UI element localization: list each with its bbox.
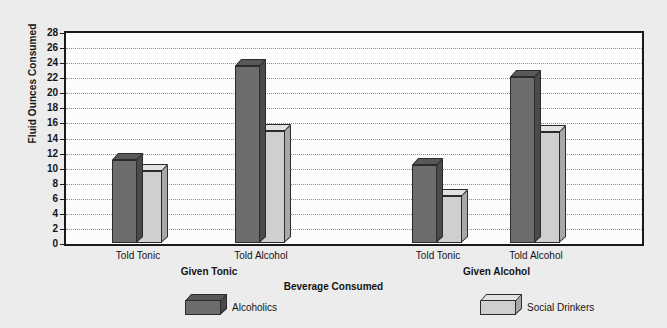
bar-side-face [161,164,168,243]
bar-side-face [136,154,143,243]
legend-item[interactable]: Social Drinkers [480,300,594,315]
bar [235,66,260,243]
y-axis-tick-label: 20 [32,87,58,98]
y-axis-tick-label: 16 [32,117,58,128]
bar-side-face [461,190,468,243]
y-axis-tick-label: 28 [32,27,58,38]
x-axis-category-label: Told Alcohol [213,250,309,261]
legend-swatch [480,300,516,315]
y-axis-tick-label: 22 [32,72,58,83]
bar-front-face [510,77,535,243]
bar-side-face [559,126,566,243]
bar-side-face [436,159,443,243]
bar [412,165,437,243]
y-axis-tick-label: 10 [32,163,58,174]
bar [510,77,535,243]
bar-front-face [412,165,437,243]
legend-swatch-top [480,294,522,301]
legend-label: Social Drinkers [527,302,594,313]
y-axis-tick-label: 12 [32,148,58,159]
x-axis-category-label: Told Tonic [90,250,186,261]
x-axis-group-label: Given Tonic [139,266,279,277]
legend-swatch-front [480,300,516,315]
x-axis-category-label: Told Alcohol [488,250,584,261]
y-axis-tick-label: 14 [32,133,58,144]
legend-swatch [185,300,221,315]
gridline [66,78,642,79]
y-axis-tick-label: 18 [32,102,58,113]
y-axis-tick-label: 26 [32,42,58,53]
y-axis-tick-label: 4 [32,208,58,219]
y-axis-tick-label: 6 [32,193,58,204]
bar-chart: Fluid Ounces Consumed 282624222018161412… [0,0,667,328]
legend-label: Alcoholics [232,302,277,313]
legend-item[interactable]: Alcoholics [185,300,277,315]
gridline [66,93,642,94]
x-axis-group-label: Given Alcohol [427,266,567,277]
bar-front-face [112,160,137,243]
y-axis-tick-label: 2 [32,223,58,234]
plot-area [64,31,644,246]
gridline [66,63,642,64]
y-axis-tick-label: 0 [32,238,58,249]
legend-swatch-top [185,294,227,301]
bar-side-face [284,125,291,243]
y-axis-tick-label: 24 [32,57,58,68]
y-axis-tick-label: 8 [32,178,58,189]
legend-swatch-front [185,300,221,315]
bar-side-face [534,71,541,243]
bar [112,160,137,243]
bar-side-face [259,60,266,243]
x-axis-category-label: Told Tonic [390,250,486,261]
gridline [66,48,642,49]
gridline [66,108,642,109]
bar-front-face [235,66,260,243]
x-axis-title: Beverage Consumed [0,281,667,292]
